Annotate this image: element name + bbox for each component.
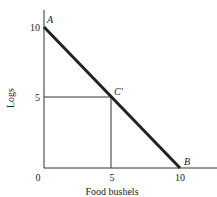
y-tick-10: 10 (30, 22, 40, 33)
point-b-label: B (184, 156, 190, 167)
y-tick-5: 5 (35, 92, 40, 103)
y-axis-label: Logs (5, 88, 16, 108)
point-a-label: A (46, 14, 54, 25)
x-axis-label: Food bushels (85, 186, 138, 197)
x-tick-5: 5 (110, 172, 115, 183)
point-c-label: C′ (114, 86, 124, 97)
ppf-chart: 10 5 0 5 10 A C′ B Food bushels Logs (0, 0, 217, 197)
x-tick-10: 10 (175, 172, 185, 183)
origin-label: 0 (36, 172, 41, 183)
